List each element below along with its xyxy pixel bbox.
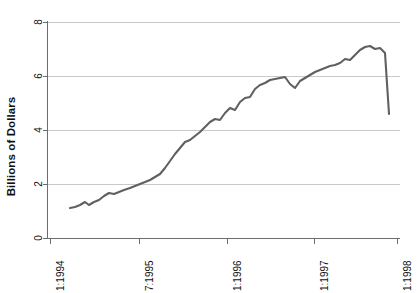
y-tick-label-8: 8: [33, 11, 45, 33]
x-tick-label-1-1996: 1:1996: [232, 245, 244, 291]
y-tick-label-2: 2: [33, 173, 45, 195]
x-tick-mark-1-1998: [397, 238, 398, 244]
x-tick-labels: 1:1994 7:1995 1:1996 1:1997 1:1998: [48, 248, 400, 293]
y-tick-label-6: 6: [33, 65, 45, 87]
chart-figure: Billions of Dollars 8 6 4 2 0: [0, 0, 419, 293]
x-tick-mark-7-1995: [139, 238, 140, 244]
x-tick-label-1-1997: 1:1997: [319, 245, 331, 291]
x-tick-mark-1-1997: [314, 238, 315, 244]
x-tick-mark-1-1994: [50, 238, 51, 244]
x-tick-marks: [48, 22, 400, 252]
y-axis-title: Billions of Dollars: [0, 0, 22, 293]
y-tick-label-4: 4: [33, 119, 45, 141]
x-tick-label-7-1995: 7:1995: [144, 245, 156, 291]
y-tick-label-0: 0: [33, 227, 45, 249]
x-tick-mark-1-1996: [227, 238, 228, 244]
x-tick-label-1-1994: 1:1994: [55, 245, 67, 291]
x-tick-label-1-1998: 1:1998: [402, 245, 414, 291]
